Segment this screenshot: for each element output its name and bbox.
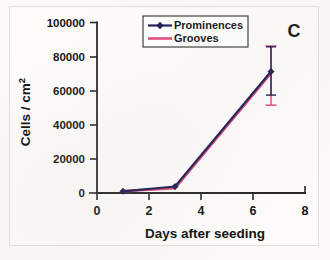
grooves-line-path: [123, 73, 271, 191]
line-chart: 0 20000 40000 60000 80000 100000 0 2: [0, 0, 330, 260]
chart-legend[interactable]: Prominences Grooves: [143, 16, 248, 47]
x-tick-label-8: 8: [302, 204, 309, 218]
figure-panel-c: 0 20000 40000 60000 80000 100000 0 2: [0, 0, 330, 260]
legend-label-grooves: Grooves: [174, 32, 219, 44]
x-tick-label-4: 4: [198, 204, 205, 218]
prominences-line-path: [123, 72, 271, 192]
y-axis-title-group: Cells / cm2: [16, 78, 33, 146]
axes-group: [90, 23, 305, 194]
series-prominences: [120, 47, 277, 195]
x-tick-label-0: 0: [94, 204, 101, 218]
y-tick-label-100000: 100000: [47, 17, 85, 29]
y-tick-label-0: 0: [79, 187, 85, 199]
panel-label-c: C: [288, 21, 301, 41]
series-grooves: [123, 46, 277, 192]
y-axis-ticks: 0 20000 40000 60000 80000 100000: [47, 17, 97, 199]
y-tick-label-60000: 60000: [53, 85, 85, 97]
x-tick-label-6: 6: [250, 204, 257, 218]
y-axis-title-base: Cells / cm: [18, 83, 33, 146]
y-tick-label-40000: 40000: [53, 119, 85, 131]
x-tick-label-2: 2: [146, 204, 153, 218]
y-axis-title-exponent: 2: [16, 78, 27, 83]
x-axis-title: Days after seeding: [145, 226, 265, 241]
y-axis-title: Cells / cm2: [16, 78, 33, 146]
x-axis-ticks: 0 2 4 6 8: [94, 193, 309, 218]
y-tick-label-80000: 80000: [53, 51, 85, 63]
legend-label-prominences: Prominences: [174, 19, 243, 31]
y-tick-label-20000: 20000: [53, 153, 85, 165]
